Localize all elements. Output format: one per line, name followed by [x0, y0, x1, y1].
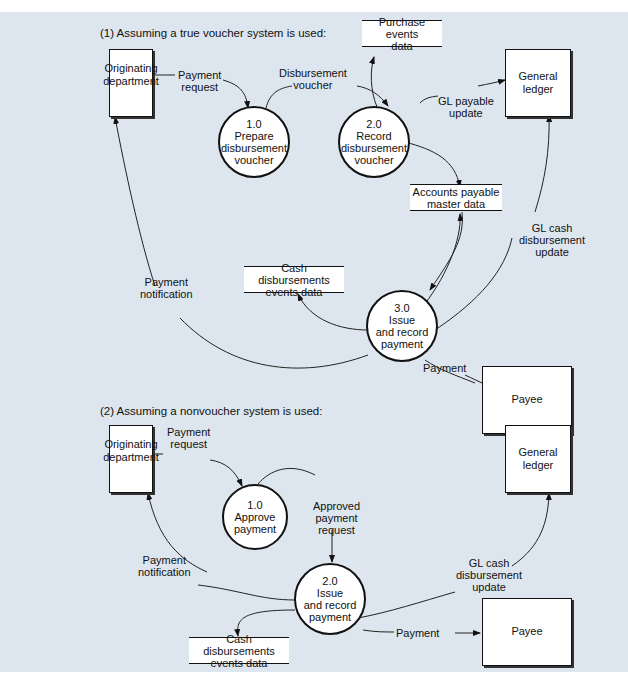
- process-label: and record: [376, 326, 429, 338]
- flow-gl-cash-update-2: GL cash disbursement update: [456, 557, 522, 593]
- store-label: master data: [410, 198, 502, 210]
- process-label: voucher: [234, 154, 273, 166]
- store-label: events data: [244, 286, 344, 298]
- entity-label: Originating: [103, 438, 159, 451]
- part2-heading: (2) Assuming a nonvoucher system is used…: [100, 405, 322, 417]
- process-label: voucher: [354, 154, 393, 166]
- entity-label: Payee: [511, 393, 542, 406]
- process-label: disbursement: [341, 142, 407, 154]
- process-number: 1.0: [247, 499, 262, 511]
- process-label: and record: [304, 599, 357, 611]
- store-cash-disbursements-2: Cash disbursements events data: [189, 637, 289, 664]
- flow-payment-request-1: Payment request: [178, 69, 221, 93]
- flow-gl-payable-update: GL payable update: [438, 95, 494, 119]
- entity-originating-department-2: Originating department: [109, 425, 153, 493]
- diagram-canvas: (1) Assuming a true voucher system is us…: [0, 0, 628, 683]
- entity-label: Originating: [103, 62, 159, 75]
- process-number: 2.0: [366, 118, 381, 130]
- process-1-approve-payment: 1.0 Approve payment: [222, 484, 288, 550]
- process-label: disbursement: [221, 142, 287, 154]
- entity-label: ledger: [518, 83, 557, 96]
- entity-general-ledger-1: General ledger: [505, 49, 571, 117]
- entity-payee-2: Payee: [482, 598, 572, 666]
- process-number: 3.0: [394, 302, 409, 314]
- entity-originating-department-1-box: Originating department: [109, 49, 153, 117]
- process-label: Record: [356, 130, 391, 142]
- flow-payment-2: Payment: [396, 627, 439, 639]
- entity-label: department: [103, 451, 159, 464]
- process-label: Issue: [317, 587, 343, 599]
- flow-disbursement-voucher: Disbursement voucher: [279, 67, 347, 91]
- store-label: Purchase events: [362, 16, 442, 40]
- flow-payment-notification-1: Payment notification: [140, 276, 193, 300]
- flow-gl-cash-update-1: GL cash disbursement update: [519, 222, 585, 258]
- process-1-prepare-voucher: 1.0 Prepare disbursement voucher: [218, 106, 290, 178]
- entity-label: General: [518, 446, 557, 459]
- process-number: 1.0: [246, 118, 261, 130]
- store-purchase-events: Purchase events data: [362, 20, 442, 47]
- process-label: Approve: [235, 511, 276, 523]
- entity-label: department: [103, 75, 159, 88]
- process-label: payment: [234, 523, 276, 535]
- store-cash-disbursements-1: Cash disbursements events data: [244, 266, 344, 293]
- process-3-issue-record-payment: 3.0 Issue and record payment: [366, 290, 438, 362]
- entity-payee-1: Payee: [482, 366, 572, 434]
- process-label: Prepare: [234, 130, 273, 142]
- flow-payment-request-2: Payment request: [167, 426, 210, 450]
- store-label: data: [362, 40, 442, 52]
- entity-label: ledger: [518, 459, 557, 472]
- entity-general-ledger-2: General ledger: [505, 425, 571, 493]
- entity-label: General: [518, 70, 557, 83]
- process-label: payment: [309, 611, 351, 623]
- process-label: payment: [381, 338, 423, 350]
- part1-heading: (1) Assuming a true voucher system is us…: [100, 27, 326, 39]
- process-label: Issue: [389, 314, 415, 326]
- flow-approved-payment-request: Approved payment request: [313, 500, 360, 536]
- entity-label: Payee: [511, 625, 542, 638]
- flow-payment-1: Payment: [423, 362, 466, 374]
- store-label: Cash disbursements: [189, 633, 289, 657]
- process-number: 2.0: [322, 575, 337, 587]
- store-label: events data: [189, 657, 289, 669]
- store-label: Accounts payable: [410, 186, 502, 198]
- flow-payment-notification-2: Payment notification: [138, 554, 191, 578]
- store-label: Cash disbursements: [244, 262, 344, 286]
- store-accounts-payable-master: Accounts payable master data: [410, 184, 502, 211]
- process-2-record-voucher: 2.0 Record disbursement voucher: [338, 106, 410, 178]
- process-2-issue-record-payment: 2.0 Issue and record payment: [294, 563, 366, 635]
